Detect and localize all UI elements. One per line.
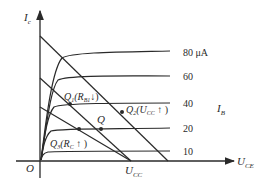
point-q <box>99 127 103 131</box>
curve-label-40: 40 <box>183 98 193 109</box>
curve-label-80: 80 μA <box>183 47 209 58</box>
ucc-label: UCC <box>125 164 143 179</box>
output-characteristics-diagram: Ic UCE O 80 μA 60 40 20 10 IB Q Q1(RB1↓)… <box>0 0 262 187</box>
curve-label-20: 20 <box>183 123 193 134</box>
load-line-ucc-increased <box>40 36 168 161</box>
x-axis-label: UCE <box>237 155 255 170</box>
label-q2: Q2(UCC ↑ ) <box>126 104 168 116</box>
point-q3 <box>77 127 81 131</box>
curve-label-60: 60 <box>183 71 193 82</box>
curve-label-10: 10 <box>183 146 193 157</box>
curve-10uA <box>41 151 170 160</box>
ib-family-label: IB <box>216 102 226 117</box>
origin-label: O <box>26 162 34 174</box>
point-q2 <box>120 110 124 114</box>
y-axis-label: Ic <box>23 11 32 26</box>
load-line-rc-increased <box>40 107 131 161</box>
load-lines <box>40 36 168 161</box>
label-q1: Q1(RB1↓) <box>64 91 99 103</box>
operating-points <box>68 102 124 131</box>
label-q3: Q3(RC ↑ ) <box>50 138 87 150</box>
label-q: Q <box>97 113 105 125</box>
